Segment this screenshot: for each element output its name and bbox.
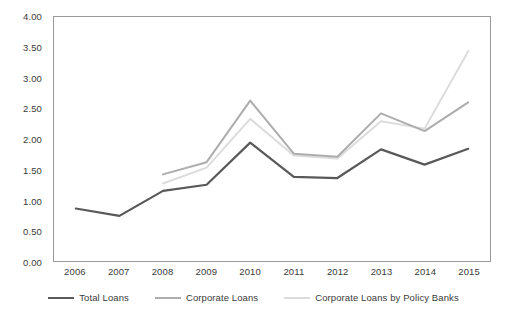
legend-item[interactable]: Total Loans: [48, 292, 129, 303]
x-axis-tick-label: 2015: [458, 266, 480, 277]
y-axis-tick-label: 4.00: [23, 11, 42, 22]
x-axis-tick-label: 2008: [152, 266, 174, 277]
chart-legend: Total LoansCorporate LoansCorporate Loan…: [0, 292, 507, 303]
x-axis-tick-label: 2007: [108, 266, 130, 277]
y-axis-tick-label: 3.00: [23, 72, 42, 83]
y-axis-tick-label: 0.50: [23, 226, 42, 237]
legend-label: Corporate Loans by Policy Banks: [315, 292, 459, 303]
y-axis-tick-label: 3.50: [23, 41, 42, 52]
x-axis-tick-label: 2012: [327, 266, 349, 277]
legend-label: Corporate Loans: [186, 292, 258, 303]
y-axis: 4.003.503.002.502.001.501.000.500.00: [0, 16, 48, 262]
x-axis: 2006200720082009201020112012201320142015: [53, 266, 491, 282]
legend-item[interactable]: Corporate Loans by Policy Banks: [284, 292, 459, 303]
x-axis-tick-label: 2014: [415, 266, 437, 277]
legend-label: Total Loans: [79, 292, 129, 303]
legend-item[interactable]: Corporate Loans: [155, 292, 258, 303]
y-axis-tick-label: 2.50: [23, 103, 42, 114]
y-axis-tick-label: 1.50: [23, 164, 42, 175]
plot-lines: [54, 17, 490, 261]
x-axis-tick-label: 2011: [283, 266, 304, 277]
legend-line-swatch: [284, 297, 310, 299]
x-axis-tick-label: 2006: [64, 266, 86, 277]
plot-area: [53, 16, 491, 262]
y-axis-tick-label: 1.00: [23, 195, 42, 206]
line-chart: 4.003.503.002.502.001.501.000.500.00 200…: [0, 0, 507, 320]
x-axis-tick-label: 2009: [196, 266, 218, 277]
x-axis-tick-label: 2010: [239, 266, 261, 277]
series-line: [76, 143, 468, 216]
y-axis-tick-label: 0.00: [23, 257, 42, 268]
legend-line-swatch: [155, 297, 181, 299]
x-axis-tick-label: 2013: [371, 266, 393, 277]
y-axis-tick-label: 2.00: [23, 134, 42, 145]
legend-line-swatch: [48, 297, 74, 299]
